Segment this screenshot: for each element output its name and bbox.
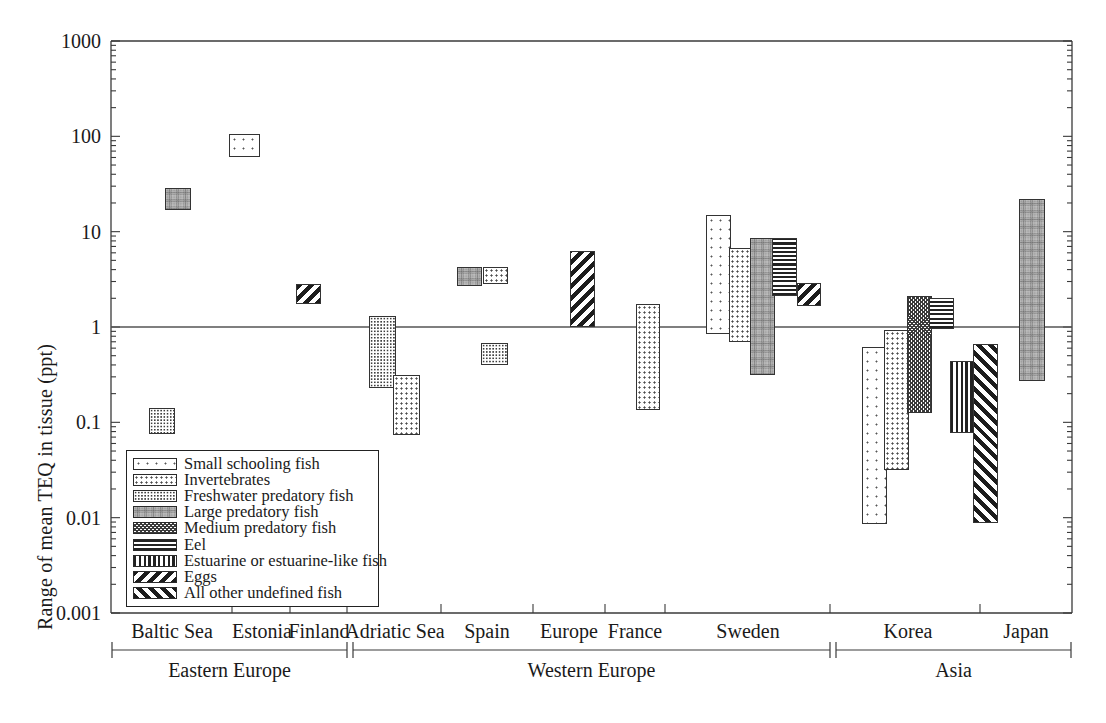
legend-label: Medium predatory fish [184,520,336,536]
axes-frame [0,0,1106,723]
legend-swatch-check-icon [133,522,177,534]
data-bar [481,343,508,365]
group-label-western-europe: Western Europe [528,659,656,682]
data-bar [636,304,660,410]
legend-swatch-dense-dots-icon [133,490,177,502]
legend-swatch-stipple-icon [133,506,177,518]
data-bar [706,215,731,334]
data-bar [950,361,974,433]
x-tick-label-korea: Korea [884,620,933,643]
data-bar [929,298,954,329]
data-bar [772,238,797,296]
y-tick-label: 10 [81,220,101,243]
y-tick-label: 0.1 [76,411,101,434]
x-tick-label-spain: Spain [464,620,510,643]
data-bar [165,188,191,210]
x-tick-label-japan: Japan [1003,620,1049,643]
data-bar [797,283,821,306]
legend-swatch-dots-icon [133,474,177,486]
data-bar [973,344,998,523]
y-tick-label: 100 [71,125,101,148]
legend-swatch-hlines-icon [133,539,177,551]
legend-label: All other undefined fish [184,585,342,601]
x-tick-label-adriatic-sea: Adriatic Sea [345,620,444,643]
data-bar [296,284,321,303]
y-axis-title: Range of mean TEQ in tissue (ppt) [34,310,57,630]
y-tick-label: 0.01 [66,506,101,529]
data-bar [229,134,260,157]
chart-figure: Range of mean TEQ in tissue (ppt) 100010… [0,0,1106,723]
x-tick-label-estonia: Estonia [232,620,292,643]
x-tick-label-france: France [608,620,662,643]
group-label-eastern-europe: Eastern Europe [168,659,291,682]
data-bar [570,251,595,327]
data-bar [884,330,909,470]
x-tick-label-sweden: Sweden [716,620,779,643]
x-tick-label-finland: Finland [288,620,349,643]
legend: Small schooling fishInvertebratesFreshwa… [126,450,379,607]
data-bar [1019,199,1045,381]
data-bar [149,408,175,434]
data-bar [483,267,508,285]
data-bar [393,375,420,435]
legend-swatch-bslash-icon [133,571,177,583]
legend-swatch-vlines-icon [133,555,177,567]
legend-item: Medium predatory fish [133,520,371,536]
group-label-asia: Asia [935,659,972,682]
x-tick-label-europe: Europe [540,620,598,643]
x-tick-label-baltic-sea: Baltic Sea [131,620,213,643]
legend-item: All other undefined fish [133,585,371,601]
legend-swatch-fslash-icon [133,587,177,599]
y-tick-label: 0.001 [56,602,101,625]
data-bar [457,267,482,286]
legend-swatch-sparse-dots-icon [133,458,177,470]
data-bar [369,316,396,388]
legend-item: Estuarine or estuarine-like fish [133,553,371,569]
y-tick-label: 1000 [61,30,101,53]
y-tick-label: 1 [91,316,101,339]
